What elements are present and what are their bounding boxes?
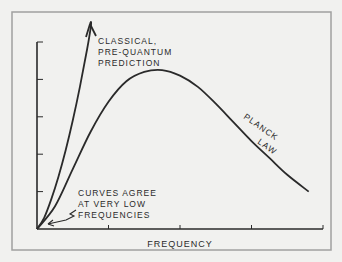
x-axis-label: FREQUENCY (147, 239, 213, 249)
diagram: RADIATED INTENSITY FREQUENCY CLASSICAL, … (0, 0, 342, 262)
classical-label-line3: PREDICTION (98, 58, 160, 68)
agree-label-line1: CURVES AGREE (78, 188, 157, 198)
agree-label-line2: AT VERY LOW (78, 199, 146, 209)
agree-label-line3: FREQUENCIES (78, 210, 150, 220)
classical-label-line2: PRE-QUANTUM (98, 47, 172, 57)
classical-label-line1: CLASSICAL, (98, 36, 157, 46)
